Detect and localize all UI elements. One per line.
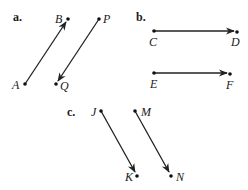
label-c-point: C bbox=[149, 35, 158, 49]
label-f-point: F bbox=[225, 78, 234, 92]
point-k bbox=[135, 174, 139, 178]
panel-b: b. C D E F bbox=[136, 10, 240, 92]
label-n-point: N bbox=[175, 170, 185, 184]
label-a-point: A bbox=[11, 78, 20, 92]
panel-label-c: c. bbox=[67, 105, 75, 119]
label-m-point: M bbox=[140, 105, 152, 119]
point-d bbox=[235, 30, 239, 34]
label-d-point: D bbox=[230, 35, 240, 49]
point-f bbox=[228, 72, 232, 76]
label-e-point: E bbox=[149, 77, 158, 91]
vector-ab bbox=[25, 22, 66, 84]
vector-mn bbox=[135, 111, 169, 172]
panel-a: a. A B P Q bbox=[11, 10, 111, 93]
point-j bbox=[99, 109, 103, 113]
vector-jk bbox=[101, 111, 135, 172]
label-j-point: J bbox=[91, 105, 97, 119]
label-q-point: Q bbox=[60, 79, 69, 93]
point-n bbox=[169, 174, 173, 178]
point-p bbox=[97, 17, 101, 21]
point-b bbox=[66, 17, 70, 21]
point-m bbox=[133, 109, 137, 113]
panel-label-b: b. bbox=[136, 10, 146, 24]
point-a bbox=[23, 82, 27, 86]
panel-label-a: a. bbox=[13, 10, 22, 24]
point-c bbox=[152, 29, 156, 33]
vector-pq bbox=[58, 19, 99, 81]
vector-diagram: a. A B P Q b. C D E F c. J K M bbox=[0, 0, 248, 190]
point-e bbox=[152, 71, 156, 75]
point-q bbox=[54, 82, 58, 86]
panel-c: c. J K M N bbox=[67, 105, 185, 184]
label-b-point: B bbox=[55, 12, 63, 26]
label-k-point: K bbox=[124, 170, 134, 184]
label-p-point: P bbox=[102, 12, 111, 26]
